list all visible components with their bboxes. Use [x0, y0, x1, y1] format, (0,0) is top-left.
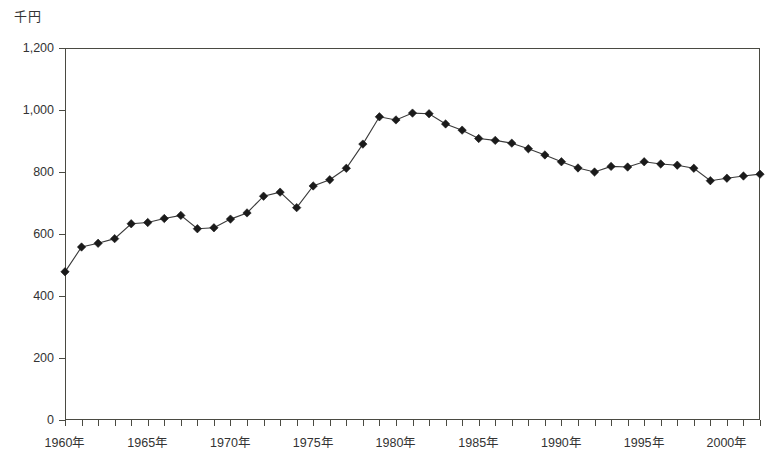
data-point-marker	[557, 158, 565, 166]
data-point-marker	[458, 126, 466, 134]
data-series-layer	[0, 0, 765, 475]
data-point-marker	[326, 176, 334, 184]
data-point-marker	[77, 243, 85, 251]
data-point-marker	[690, 164, 698, 172]
data-point-marker	[375, 113, 383, 121]
data-point-marker	[739, 172, 747, 180]
data-point-marker	[392, 116, 400, 124]
data-point-marker	[160, 214, 168, 222]
data-point-marker	[359, 140, 367, 148]
data-point-marker	[408, 109, 416, 117]
data-point-marker	[640, 158, 648, 166]
data-point-marker	[590, 168, 598, 176]
data-point-marker	[657, 160, 665, 168]
data-point-marker	[226, 215, 234, 223]
data-point-marker	[474, 134, 482, 142]
data-point-marker	[756, 170, 764, 178]
data-point-marker	[491, 136, 499, 144]
data-point-marker	[723, 174, 731, 182]
data-point-marker	[623, 163, 631, 171]
data-point-marker	[541, 151, 549, 159]
data-point-marker	[425, 110, 433, 118]
data-point-marker	[144, 218, 152, 226]
data-point-marker	[94, 239, 102, 247]
data-point-marker	[441, 120, 449, 128]
line-chart: 千円 02004006008001,0001,200 1960年1965年197…	[0, 0, 765, 475]
data-point-marker	[342, 164, 350, 172]
data-point-marker	[508, 139, 516, 147]
data-point-marker	[210, 224, 218, 232]
data-point-marker	[673, 161, 681, 169]
data-point-marker	[524, 145, 532, 153]
data-point-marker	[309, 182, 317, 190]
series-line	[65, 113, 760, 272]
data-point-marker	[574, 164, 582, 172]
data-point-marker	[607, 162, 615, 170]
series-markers	[61, 109, 764, 276]
data-point-marker	[706, 176, 714, 184]
data-point-marker	[61, 268, 69, 276]
